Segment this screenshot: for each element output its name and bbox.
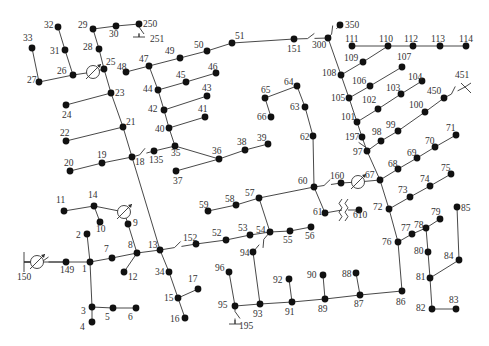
bus-node-37 <box>173 168 180 175</box>
bus-node-135 <box>151 148 158 155</box>
bus-label-101: 101 <box>341 112 356 122</box>
bus-node-67 <box>377 177 384 184</box>
bus-label-79: 79 <box>431 207 441 217</box>
bus-label-46: 46 <box>208 62 218 72</box>
bus-node-87 <box>357 292 364 299</box>
bus-node-450 <box>441 95 448 102</box>
bus-node-15 <box>175 295 182 302</box>
line-81-84 <box>430 260 459 278</box>
line-19-20 <box>70 163 102 171</box>
bus-label-195: 195 <box>239 321 254 331</box>
bus-label-56: 56 <box>305 231 315 241</box>
bus-label-30: 30 <box>109 29 119 39</box>
line-101-102 <box>357 109 378 122</box>
bus-label-76: 76 <box>382 237 392 247</box>
line-30-250 <box>116 24 139 26</box>
bus-node-73 <box>407 194 414 201</box>
bus-label-135: 135 <box>149 155 164 165</box>
bus-label-1: 1 <box>82 264 87 274</box>
bus-label-3: 3 <box>81 306 86 316</box>
bus-label-20: 20 <box>64 158 74 168</box>
bus-label-106: 106 <box>352 76 367 86</box>
bus-label-38: 38 <box>237 137 247 147</box>
bus-node-4 <box>89 319 96 326</box>
bus-node-36 <box>216 156 223 163</box>
voltage-regulator-icon <box>73 64 104 79</box>
bus-node-3 <box>89 304 96 311</box>
bus-node-94 <box>250 249 257 256</box>
bus-label-150: 150 <box>17 272 32 282</box>
bus-node-66 <box>268 114 275 121</box>
bus-node-98 <box>378 138 385 145</box>
bus-label-85: 85 <box>461 203 471 213</box>
bus-label-5: 5 <box>105 312 110 322</box>
line-152-52 <box>196 240 226 244</box>
bus-node-88 <box>353 270 360 277</box>
line-23-25 <box>104 69 111 93</box>
bus-label-34: 34 <box>155 267 165 277</box>
bus-node-43 <box>204 93 211 100</box>
bus-label-251: 251 <box>150 34 165 44</box>
bus-label-103: 103 <box>386 83 401 93</box>
bus-label-111: 111 <box>345 34 359 44</box>
bus-node-19 <box>99 160 106 167</box>
bus-label-95: 95 <box>218 300 228 310</box>
bus-label-160: 160 <box>330 171 345 181</box>
bus-label-59: 59 <box>199 200 209 210</box>
bus-node-108 <box>338 72 345 79</box>
bus-node-23 <box>108 90 115 97</box>
bus-label-91: 91 <box>285 307 295 317</box>
bus-node-64 <box>294 83 301 90</box>
bus-label-149: 149 <box>60 265 75 275</box>
line-21-23 <box>111 93 123 127</box>
line-93-95 <box>235 304 260 306</box>
bus-node-44 <box>155 87 162 94</box>
bus-label-80: 80 <box>414 246 424 256</box>
line-52-53 <box>226 235 250 240</box>
bus-node-102 <box>375 106 382 113</box>
bus-node-8 <box>134 250 141 257</box>
bus-node-6 <box>133 305 140 312</box>
bus-node-1 <box>87 259 94 266</box>
bus-node-11 <box>61 208 68 215</box>
bus-label-11: 11 <box>56 195 65 205</box>
bus-node-106 <box>367 83 374 90</box>
line-57-60 <box>259 187 314 198</box>
bus-label-6: 6 <box>128 312 133 322</box>
bus-label-12: 12 <box>128 272 138 282</box>
bus-label-53: 53 <box>238 223 248 233</box>
bus-label-8: 8 <box>128 240 133 250</box>
line-102-103 <box>378 94 401 109</box>
bus-label-9: 9 <box>133 218 138 228</box>
bus-node-52 <box>223 237 230 244</box>
line-36-37 <box>176 159 219 171</box>
bus-label-109: 109 <box>344 53 359 63</box>
bus-label-24: 24 <box>62 110 72 120</box>
bus-node-109 <box>360 59 367 66</box>
bus-label-49: 49 <box>165 46 175 56</box>
bus-label-78: 78 <box>414 220 424 230</box>
bus-label-71: 71 <box>446 123 456 133</box>
bus-node-80 <box>425 249 432 256</box>
bus-label-61: 61 <box>313 207 323 217</box>
bus-label-55: 55 <box>283 235 293 245</box>
bus-node-9 <box>125 221 132 228</box>
bus-label-97: 97 <box>353 147 363 157</box>
line-38-39 <box>245 144 268 150</box>
bus-node-16 <box>182 315 189 322</box>
bus-node-57 <box>256 195 263 202</box>
bus-node-90 <box>320 272 327 279</box>
line-89-90 <box>323 275 325 299</box>
switch-54-94 <box>253 232 270 252</box>
bus-label-50: 50 <box>194 40 204 50</box>
bus-label-113: 113 <box>431 34 445 44</box>
bus-label-250: 250 <box>143 19 158 29</box>
line-72-73 <box>389 197 410 209</box>
bus-label-28: 28 <box>83 42 93 52</box>
bus-label-450: 450 <box>427 86 442 96</box>
bus-node-2 <box>84 231 91 238</box>
bus-node-42 <box>161 107 168 114</box>
bus-node-50 <box>204 48 211 55</box>
line-21-22 <box>66 127 123 141</box>
line-1-2 <box>87 234 90 262</box>
